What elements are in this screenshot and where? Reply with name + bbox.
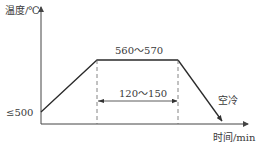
process-curve: [41, 60, 178, 112]
heat-treatment-chart: 温度/℃ 时间/min ≤500 560～570 120～150 空冷: [0, 0, 256, 146]
hold-temp-label: 560～570: [115, 45, 163, 56]
x-axis-label: 时间/min: [213, 131, 256, 143]
hold-time-label: 120～150: [119, 88, 167, 99]
cooling-line: [178, 60, 222, 121]
cooling-label: 空冷: [218, 94, 238, 106]
start-temp-label: ≤500: [6, 107, 33, 118]
y-axis-label: 温度/℃: [5, 4, 40, 16]
dimension-arrow-left-icon: [98, 99, 104, 103]
